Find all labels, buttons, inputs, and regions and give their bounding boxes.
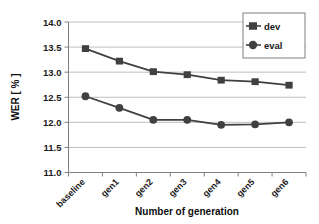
legend: dev eval: [243, 13, 305, 58]
data-point-eval: [82, 92, 90, 100]
data-point-eval: [217, 121, 225, 129]
data-point-dev: [252, 78, 259, 85]
y-tick-label: 13.5: [43, 42, 62, 53]
data-point-eval: [183, 116, 191, 124]
x-axis-title: Number of generation: [135, 206, 239, 217]
legend-label-dev: dev: [264, 21, 281, 32]
chart-container: 11.011.512.012.513.013.514.0 baselinegen…: [0, 0, 319, 224]
legend-marker-eval-circle-icon: [249, 41, 257, 49]
y-tick-label: 13.0: [43, 67, 62, 78]
data-point-eval: [149, 116, 157, 124]
data-point-dev: [150, 68, 157, 75]
y-tick-label: 12.5: [43, 92, 62, 103]
data-point-dev: [184, 71, 191, 78]
y-tick-label: 11.0: [44, 167, 62, 178]
y-axis-title: WER [ % ]: [10, 73, 21, 120]
data-point-dev: [285, 82, 292, 89]
data-point-dev: [82, 45, 89, 52]
data-point-eval: [115, 104, 123, 112]
legend-marker-dev-square-icon: [249, 23, 257, 30]
data-point-eval: [251, 120, 259, 128]
y-tick-label: 12.0: [43, 117, 62, 128]
data-point-dev: [218, 77, 225, 84]
data-point-dev: [116, 58, 123, 65]
legend-label-eval: eval: [264, 40, 283, 51]
data-point-eval: [285, 118, 293, 126]
y-tick-label: 11.5: [44, 142, 63, 153]
y-tick-label: 14.0: [43, 17, 62, 28]
